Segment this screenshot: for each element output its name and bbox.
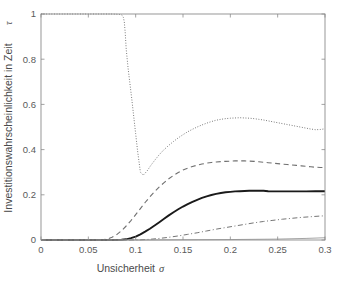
y-axis-title-text: Investitionswahrscheinlichkeit in Zeit bbox=[2, 43, 14, 212]
x-tick-label: 0.1 bbox=[129, 244, 142, 255]
y-tick-label: 0.8 bbox=[23, 54, 36, 65]
y-tick-label: 0.2 bbox=[23, 189, 36, 200]
x-tick-label: 0.15 bbox=[174, 244, 193, 255]
y-tick-label: 0.4 bbox=[23, 144, 36, 155]
x-tick-label: 0.3 bbox=[318, 244, 331, 255]
line-chart: 00.050.10.150.20.250.3 00.20.40.60.81 Un… bbox=[0, 0, 338, 282]
x-tick-label: 0.2 bbox=[224, 244, 237, 255]
x-tick-label: 0.05 bbox=[79, 244, 98, 255]
y-axis-title: Investitionswahrscheinlichkeit in Zeit τ bbox=[2, 20, 14, 213]
x-tick-label: 0 bbox=[38, 244, 43, 255]
y-tick-label: 0.6 bbox=[23, 99, 36, 110]
x-axis-title-symbol: σ bbox=[159, 263, 165, 274]
chart-figure: 00.050.10.150.20.250.3 00.20.40.60.81 Un… bbox=[0, 0, 338, 282]
x-axis-title-text: Unsicherheit bbox=[97, 262, 155, 274]
x-axis-title: Unsicherheit σ bbox=[97, 262, 165, 274]
y-tick-label: 0 bbox=[31, 234, 36, 245]
x-tick-label: 0.25 bbox=[268, 244, 287, 255]
y-tick-label: 1 bbox=[31, 8, 36, 19]
